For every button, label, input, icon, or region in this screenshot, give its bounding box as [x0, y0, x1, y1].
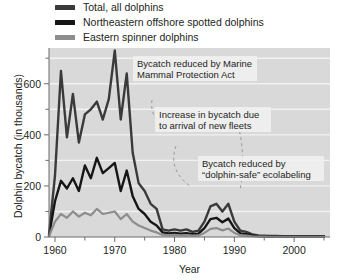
y-tick-label: 200 [23, 180, 41, 192]
y-axis-title: Dolphin bycatch (in thousands) [12, 66, 24, 226]
annotation-mmpa-line: Mammal Protection Act [137, 69, 235, 80]
annotation-new-fleets-line: Increase in bycatch due [159, 109, 259, 120]
y-tick-label: 400 [23, 129, 41, 141]
y-tick-label: 0 [35, 231, 41, 243]
dolphin-bycatch-chart: Total, all dolphins Northeastern offshor… [0, 0, 339, 280]
annotation-dolphin-safe-line: “dolphin-safe” ecolabeling [202, 169, 311, 180]
legend-swatch-spotted [55, 20, 75, 25]
chart-legend: Total, all dolphins Northeastern offshor… [55, 0, 339, 45]
legend-label-spinner: Eastern spinner dolphins [83, 32, 199, 43]
legend-item-spotted: Northeastern offshore spotted dolphins [55, 15, 339, 30]
x-tick-label: 2000 [282, 244, 306, 256]
x-tick-label: 1960 [43, 244, 67, 256]
annotation-new-fleets-line: to arrival of new fleets [159, 120, 252, 131]
x-axis-title: Year [49, 263, 330, 275]
legend-label-total: Total, all dolphins [83, 2, 164, 13]
annotation-dolphin-safe-line: Bycatch reduced by [202, 158, 286, 169]
legend-item-total: Total, all dolphins [55, 0, 339, 15]
legend-label-spotted: Northeastern offshore spotted dolphins [83, 17, 264, 28]
x-tick-label: 1990 [223, 244, 247, 256]
x-tick-label: 1980 [163, 244, 187, 256]
annotation-mmpa-line: Bycatch reduced by Marine [137, 58, 252, 69]
x-tick-label: 1970 [103, 244, 127, 256]
y-tick-label: 600 [23, 78, 41, 90]
legend-item-spinner: Eastern spinner dolphins [55, 30, 339, 45]
legend-swatch-spinner [55, 35, 75, 40]
legend-swatch-total [55, 5, 75, 10]
